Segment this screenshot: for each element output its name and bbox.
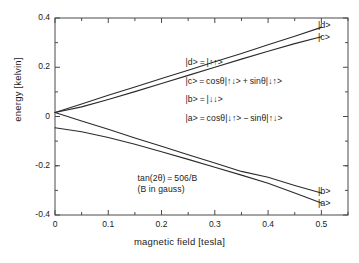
- x-axis-label: magnetic field [tesla]: [0, 236, 359, 247]
- tan-formula: tan(2θ) = 506/B: [138, 173, 198, 183]
- y-tick-label: -0.2: [20, 160, 50, 170]
- x-tick-label: 0.4: [253, 219, 283, 229]
- y-tick-label: 0: [20, 111, 50, 121]
- y-tick-label: -0.4: [20, 209, 50, 219]
- x-tick-label: 0.5: [306, 219, 336, 229]
- x-tick-label: 0.3: [200, 219, 230, 229]
- x-tick-label: 0.1: [93, 219, 123, 229]
- x-tick-label: 0: [40, 219, 70, 229]
- x-tick-label: 0.2: [147, 219, 177, 229]
- curve-label-a: |a>: [318, 198, 331, 208]
- y-tick-label: 0.4: [20, 12, 50, 22]
- gauss-note: (B in gauss): [138, 184, 185, 194]
- y-axis-label: energy [kelvin]: [12, 35, 23, 145]
- chart-figure: energy [kelvin] magnetic field [tesla] 0…: [0, 0, 359, 263]
- curve-label-c: |c>: [318, 32, 330, 42]
- curve-label-d: |d>: [318, 20, 331, 30]
- y-tick-label: 0.2: [20, 61, 50, 71]
- eq-a: |a> = cosθ|↓↑> − sinθ|↑↓>: [186, 113, 283, 123]
- eq-b: |b> = |↓↓>: [186, 94, 223, 104]
- curve-label-b: |b>: [318, 186, 331, 196]
- eq-c: |c> = cosθ|↑↓> + sinθ|↓↑>: [186, 76, 283, 86]
- curve-a: [55, 128, 321, 203]
- eq-d: |d> = |↑↑>: [186, 57, 223, 67]
